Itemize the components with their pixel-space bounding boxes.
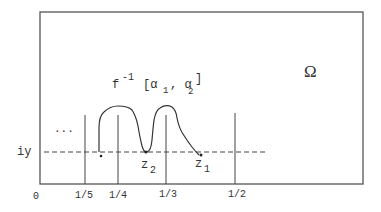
tick-label-0: 0 bbox=[33, 191, 39, 202]
tick-label-1-5: 1/5 bbox=[75, 190, 93, 201]
iy-label: iy bbox=[17, 145, 31, 159]
tick-label-1-2: 1/2 bbox=[228, 189, 246, 200]
curve-label: f -1 [α 1 , α 2 ] bbox=[112, 70, 202, 98]
region-omega-label: Ω bbox=[304, 62, 317, 81]
ellipsis-label: ... bbox=[54, 123, 74, 135]
z2-label: z 2 bbox=[141, 158, 156, 176]
preimage-curve bbox=[99, 106, 199, 155]
tick-label-1-3: 1/3 bbox=[159, 189, 177, 200]
diagram-canvas: f -1 [α 1 , α 2 ] Ω ... iy z 2 z 1 0 1/5… bbox=[0, 0, 381, 212]
curve-start-dot bbox=[100, 155, 103, 158]
point-z2-dot bbox=[145, 151, 148, 154]
z1-label: z 1 bbox=[195, 157, 210, 175]
tick-label-1-4: 1/4 bbox=[109, 190, 127, 201]
